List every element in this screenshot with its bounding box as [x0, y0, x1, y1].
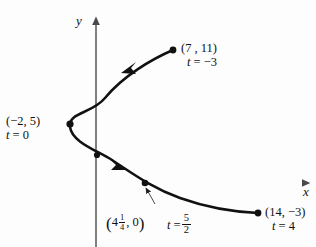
x-intercept-t-fraction: 52 [182, 213, 191, 235]
start-point-t-value: −3 [204, 55, 217, 69]
end-point-t-eq: = [279, 219, 286, 233]
start-point-t-eq: = [194, 55, 201, 69]
vertex-point-t-eq: = [13, 128, 20, 142]
start-point-label: (7 , 11) t = −3 [181, 41, 217, 69]
x-intercept-paren-close: ) [139, 214, 145, 233]
x-intercept-t-denominator: 2 [182, 224, 191, 236]
vertex-point-t-prefix: t [6, 128, 9, 142]
direction-arrow-upper [121, 62, 136, 74]
vertex-point-t: t = 0 [6, 128, 40, 142]
x-intercept-t-eq: = [174, 218, 181, 232]
end-point-t-prefix: t [272, 219, 275, 233]
direction-arrowheads [110, 62, 136, 170]
x-intercept-fraction: 14 [119, 213, 125, 231]
point-end [255, 210, 262, 217]
x-intercept-frac-numerator: 1 [119, 213, 125, 222]
point-start [170, 47, 177, 54]
vertex-point-label: (−2, 5) t = 0 [6, 114, 40, 142]
x-axis-label: x [303, 185, 309, 200]
x-intercept-whole: 4 [112, 215, 118, 229]
point-vertex [66, 120, 73, 127]
x-intercept-t-label: t =52 [167, 213, 192, 235]
end-point-t-value: 4 [289, 219, 295, 233]
vertex-point-t-value: 0 [23, 128, 29, 142]
end-point-label: (14, −3) t = 4 [265, 205, 305, 233]
start-point-t: t = −3 [187, 55, 217, 69]
start-point-coord: (7 , 11) [181, 41, 217, 55]
point-x-intercept [142, 180, 149, 187]
vertex-point-coord: (−2, 5) [6, 114, 40, 128]
x-intercept-label: (414, 0) [106, 212, 144, 233]
x-intercept-coord-rest: , 0 [126, 215, 139, 229]
y-axis-label: y [76, 14, 82, 29]
x-intercept-leader-line [146, 188, 155, 204]
end-point-coord: (14, −3) [265, 205, 305, 219]
curve-path [70, 50, 258, 213]
x-intercept-t-prefix: t [167, 218, 170, 232]
point-y-crossing [94, 152, 100, 158]
x-intercept-frac-denominator: 4 [119, 222, 125, 232]
curve [70, 50, 258, 213]
x-intercept-t-numerator: 5 [182, 213, 191, 224]
start-point-t-prefix: t [187, 55, 190, 69]
end-point-t: t = 4 [272, 219, 305, 233]
